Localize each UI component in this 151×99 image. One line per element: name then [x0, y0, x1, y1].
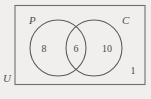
count-c-only: 10 — [102, 43, 112, 54]
count-intersection: 6 — [74, 43, 79, 54]
count-outside: 1 — [131, 65, 136, 76]
set-label-c: C — [122, 14, 130, 26]
count-p-only: 8 — [42, 43, 47, 54]
universal-set-label: U — [3, 72, 12, 84]
venn-diagram: P C U 8 6 10 1 — [0, 0, 151, 99]
set-label-p: P — [28, 14, 36, 26]
venn-canvas: P C U 8 6 10 1 — [0, 0, 151, 99]
